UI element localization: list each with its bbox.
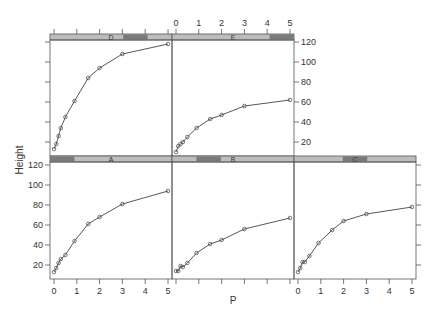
panel-frame bbox=[294, 162, 416, 279]
x-tick-label: 5 bbox=[165, 286, 170, 296]
strip-indicator bbox=[270, 35, 294, 40]
trellis-chart: DEABC 0123450123450123452040608010012020… bbox=[0, 0, 431, 315]
panel-b: B bbox=[172, 156, 294, 280]
series-line bbox=[54, 44, 168, 149]
x-axis-label: P bbox=[230, 295, 237, 306]
panel-d: D bbox=[50, 34, 172, 157]
y-tick-label: 40 bbox=[301, 117, 311, 127]
panel-frame bbox=[50, 40, 172, 156]
panel-c: C bbox=[294, 156, 416, 280]
x-tick-label: 4 bbox=[387, 286, 392, 296]
strip-label: A bbox=[109, 156, 114, 163]
x-tick-label: 3 bbox=[364, 286, 369, 296]
y-tick-label: 20 bbox=[301, 137, 311, 147]
panel-e: E bbox=[172, 34, 294, 157]
x-tick-label: 1 bbox=[74, 286, 79, 296]
x-tick-label: 0 bbox=[295, 286, 300, 296]
panel-frame bbox=[50, 162, 172, 279]
y-tick-label: 100 bbox=[28, 180, 43, 190]
strip-indicator bbox=[196, 157, 220, 162]
x-tick-label: 1 bbox=[318, 286, 323, 296]
x-tick-label: 3 bbox=[242, 18, 247, 28]
strip-indicator bbox=[123, 35, 147, 40]
panel-frame bbox=[172, 162, 294, 279]
y-tick-label: 100 bbox=[301, 57, 316, 67]
y-tick-label: 20 bbox=[33, 260, 43, 270]
x-tick-label: 0 bbox=[51, 286, 56, 296]
x-tick-label: 1 bbox=[196, 18, 201, 28]
x-tick-label: 2 bbox=[97, 286, 102, 296]
panel-frame bbox=[172, 40, 294, 156]
strip-indicator bbox=[50, 157, 74, 162]
x-tick-label: 4 bbox=[143, 286, 148, 296]
y-tick-label: 120 bbox=[301, 37, 316, 47]
series-line bbox=[176, 218, 290, 271]
x-tick-label: 3 bbox=[120, 286, 125, 296]
y-tick-label: 120 bbox=[28, 160, 43, 170]
x-tick-label: 2 bbox=[341, 286, 346, 296]
x-tick-label: 5 bbox=[409, 286, 414, 296]
panels-layer: DEABC bbox=[50, 34, 416, 280]
y-tick-label: 40 bbox=[33, 240, 43, 250]
x-tick-label: 4 bbox=[265, 18, 270, 28]
series-line bbox=[54, 191, 168, 272]
series-line bbox=[298, 207, 412, 272]
y-tick-label: 80 bbox=[33, 200, 43, 210]
strip-label: E bbox=[231, 34, 236, 41]
x-tick-label: 2 bbox=[219, 18, 224, 28]
series-line bbox=[176, 100, 290, 152]
y-tick-label: 80 bbox=[301, 77, 311, 87]
strip-label: B bbox=[231, 156, 236, 163]
x-tick-label: 5 bbox=[287, 18, 292, 28]
y-axis-label: Height bbox=[14, 145, 25, 174]
strip-label: C bbox=[352, 156, 357, 163]
y-tick-label: 60 bbox=[301, 97, 311, 107]
panel-a: A bbox=[50, 156, 172, 280]
y-tick-label: 60 bbox=[33, 220, 43, 230]
x-tick-label: 0 bbox=[173, 18, 178, 28]
strip-label: D bbox=[108, 34, 113, 41]
